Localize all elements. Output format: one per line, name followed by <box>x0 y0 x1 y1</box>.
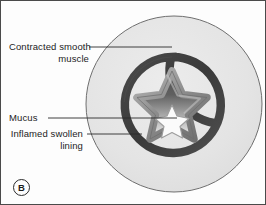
bronchiole-cross-section-diagram <box>1 1 266 205</box>
panel-letter-badge: B <box>13 179 30 196</box>
label-contracted-smooth-muscle: Contracted smooth muscle <box>9 41 89 64</box>
label-mucus: Mucus <box>9 112 45 124</box>
label-inflamed-swollen-lining: Inflamed swollen lining <box>5 128 83 151</box>
panel-letter-text: B <box>18 183 25 193</box>
figure-panel: Contracted smooth muscle Mucus Inflamed … <box>0 0 266 205</box>
